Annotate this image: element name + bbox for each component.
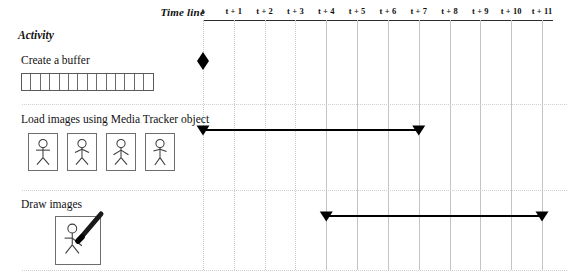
timeline-tick-label-1: t + 1	[225, 6, 242, 16]
timeline-tick-label-8: t + 8	[441, 6, 458, 16]
activity-column-title: Activity	[18, 29, 54, 41]
timeline-gridline-6	[388, 20, 389, 270]
buffer-segment	[22, 74, 31, 90]
diagram-canvas: Time line Activity tt + 1t + 2t + 3t + 4…	[0, 0, 576, 274]
buffer-segment	[78, 74, 87, 90]
buffer-segment	[107, 74, 116, 90]
stick-figure-drawing-icon	[55, 216, 101, 265]
row-title-load-images: Load images using Media Tracker object	[21, 113, 209, 125]
buffer-segment	[41, 74, 50, 90]
buffer-segment	[31, 74, 40, 90]
timeline-tick-label-0: t	[202, 6, 205, 16]
timeline-axis-line	[203, 20, 553, 21]
timeline-tick-label-9: t + 9	[472, 6, 489, 16]
buffer-segment	[50, 74, 59, 90]
timeline-tick-label-3: t + 3	[287, 6, 304, 16]
timeline-gridline-9	[480, 20, 481, 270]
stick-figure-icon-2	[67, 133, 97, 171]
timeline-gridline-8	[450, 20, 451, 270]
timeline-gridline-10	[511, 20, 512, 270]
buffer-segment	[88, 74, 97, 90]
timeline-gridline-2	[265, 20, 266, 270]
buffer-segment	[135, 74, 144, 90]
buffer-segment	[144, 74, 153, 90]
timeline-tick-label-6: t + 6	[380, 6, 397, 16]
timeline-gridline-7	[419, 20, 420, 270]
stick-figure-icon-1	[28, 133, 58, 171]
row-title-draw-images: Draw images	[21, 198, 82, 210]
buffer-segment	[97, 74, 106, 90]
timeline-tick-label-5: t + 5	[349, 6, 366, 16]
timeline-tick-label-4: t + 4	[318, 6, 335, 16]
timeline-gridline-1	[234, 20, 235, 270]
timeline-gridline-11	[542, 20, 543, 270]
row-separator-3	[22, 270, 567, 271]
segmented-buffer-bar-icon	[21, 73, 154, 91]
stick-figure-icon-3	[106, 133, 136, 171]
timeline-gridline-0	[203, 20, 204, 270]
timeline-axis-title: Time line	[150, 6, 205, 18]
buffer-segment	[125, 74, 134, 90]
timeline-gridline-4	[326, 20, 327, 270]
buffer-segment	[69, 74, 78, 90]
buffer-segment	[116, 74, 125, 90]
timeline-tick-label-7: t + 7	[410, 6, 427, 16]
timeline-gridline-5	[357, 20, 358, 270]
timeline-tick-label-10: t + 10	[501, 6, 522, 16]
timeline-tick-label-2: t + 2	[256, 6, 273, 16]
timeline-gridline-3	[295, 20, 296, 270]
row-separator-2	[22, 190, 567, 191]
buffer-segment	[60, 74, 69, 90]
stick-figure-icon-4	[145, 133, 175, 171]
row-title-create-a-buffer: Create a buffer	[21, 54, 90, 66]
row-separator-1	[22, 104, 567, 105]
timeline-tick-label-11: t + 11	[532, 6, 553, 16]
